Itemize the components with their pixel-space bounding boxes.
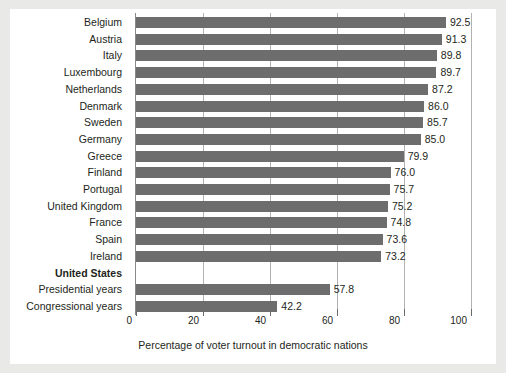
chart-figure: Belgium92.5Austria91.3Italy89.8Luxembour… <box>10 9 496 364</box>
chart-row: United States <box>10 265 496 282</box>
bar-value-label: 75.2 <box>392 198 412 215</box>
chart-row: Congressional years42.2 <box>10 298 496 315</box>
bar <box>136 84 428 95</box>
bar <box>136 34 442 45</box>
tick-mark-40 <box>270 309 271 316</box>
category-label: Austria <box>10 31 122 48</box>
chart-row: Greece79.9 <box>10 148 496 165</box>
category-label: Spain <box>10 231 122 248</box>
chart-row: Luxembourg89.7 <box>10 64 496 81</box>
bar <box>136 50 437 61</box>
category-label: Greece <box>10 148 122 165</box>
tick-label-80: 80 <box>370 315 400 326</box>
chart-row: Italy89.8 <box>10 47 496 64</box>
bar-value-label: 76.0 <box>395 164 415 181</box>
chart-row: Netherlands87.2 <box>10 81 496 98</box>
chart-row: Denmark86.0 <box>10 98 496 115</box>
bar <box>136 251 381 262</box>
bar <box>136 67 436 78</box>
chart-row: United Kingdom75.2 <box>10 198 496 215</box>
bar <box>136 151 404 162</box>
bar-value-label: 89.7 <box>440 64 460 81</box>
bar <box>136 167 391 178</box>
tick-label-0: 0 <box>102 315 132 326</box>
bar <box>136 301 277 312</box>
tick-label-20: 20 <box>169 315 199 326</box>
bar-value-label: 73.2 <box>385 248 405 265</box>
tick-mark-0 <box>136 309 137 316</box>
category-label: Presidential years <box>10 281 122 298</box>
chart-row: Ireland73.2 <box>10 248 496 265</box>
bar-value-label: 73.6 <box>387 231 407 248</box>
bar-value-label: 75.7 <box>394 181 414 198</box>
category-label: Belgium <box>10 14 122 31</box>
bar-value-label: 86.0 <box>428 98 448 115</box>
tick-label-60: 60 <box>303 315 333 326</box>
chart-row: Spain73.6 <box>10 231 496 248</box>
tick-mark-80 <box>404 309 405 316</box>
category-label: Congressional years <box>10 298 122 315</box>
tick-mark-20 <box>203 309 204 316</box>
chart-row: France74.8 <box>10 214 496 231</box>
bar-value-label: 87.2 <box>432 81 452 98</box>
chart-row: Belgium92.5 <box>10 14 496 31</box>
category-label: Denmark <box>10 98 122 115</box>
category-label: France <box>10 214 122 231</box>
chart-row: Finland76.0 <box>10 164 496 181</box>
tick-mark-60 <box>337 309 338 316</box>
category-label: Germany <box>10 131 122 148</box>
bar-value-label: 91.3 <box>446 31 466 48</box>
category-label: Portugal <box>10 181 122 198</box>
chart-row: Portugal75.7 <box>10 181 496 198</box>
category-label: Ireland <box>10 248 122 265</box>
bar-value-label: 92.5 <box>450 14 470 31</box>
bar-value-label: 85.0 <box>425 131 445 148</box>
bar <box>136 117 423 128</box>
chart-row: Austria91.3 <box>10 31 496 48</box>
bar <box>136 17 446 28</box>
category-label: United States <box>10 265 122 282</box>
chart-row: Germany85.0 <box>10 131 496 148</box>
tick-label-100: 100 <box>437 315 467 326</box>
bar-value-label: 74.8 <box>391 214 411 231</box>
category-label: Sweden <box>10 114 122 131</box>
bar <box>136 134 421 145</box>
plot-area: Belgium92.5Austria91.3Italy89.8Luxembour… <box>10 9 496 364</box>
bar-value-label: 42.2 <box>281 298 301 315</box>
category-label: Netherlands <box>10 81 122 98</box>
bar <box>136 101 424 112</box>
bar <box>136 201 388 212</box>
bar <box>136 217 387 228</box>
bar-value-label: 79.9 <box>408 148 428 165</box>
bar <box>136 184 390 195</box>
category-label: Italy <box>10 47 122 64</box>
chart-row: Presidential years57.8 <box>10 281 496 298</box>
bar-value-label: 85.7 <box>427 114 447 131</box>
bar <box>136 284 330 295</box>
tick-mark-100 <box>471 309 472 316</box>
x-axis-title: Percentage of voter turnout in democrati… <box>10 339 496 351</box>
category-label: Luxembourg <box>10 64 122 81</box>
category-label: United Kingdom <box>10 198 122 215</box>
bar-value-label: 89.8 <box>441 47 461 64</box>
tick-label-40: 40 <box>236 315 266 326</box>
category-label: Finland <box>10 164 122 181</box>
bar-value-label: 57.8 <box>334 281 354 298</box>
bar <box>136 234 383 245</box>
chart-row: Sweden85.7 <box>10 114 496 131</box>
